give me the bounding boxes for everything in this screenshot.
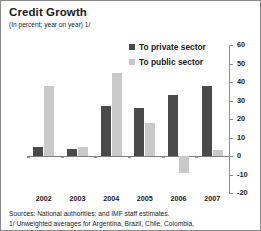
- y-axis-tick: [229, 101, 233, 102]
- x-axis-category-labels: 200220032004200520062007: [27, 194, 229, 206]
- bar-2006-public[interactable]: [179, 156, 189, 173]
- x-axis-category-2004: 2004: [94, 194, 128, 203]
- bar-2002-public[interactable]: [44, 86, 54, 156]
- x-axis-tick: [195, 157, 198, 158]
- bar-2007-public[interactable]: [213, 150, 223, 156]
- bar-2003-public[interactable]: [78, 147, 88, 156]
- x-axis-tick: [94, 157, 97, 158]
- y-axis-tick: [229, 138, 233, 139]
- y-axis-label: 0: [237, 152, 241, 159]
- bar-2002-private[interactable]: [33, 147, 43, 156]
- bar-2004-public[interactable]: [112, 73, 122, 156]
- x-axis-category-2006: 2006: [162, 194, 196, 203]
- y-axis-label: -20: [237, 189, 248, 196]
- x-axis-tick: [162, 157, 165, 158]
- y-axis-label: 30: [237, 97, 245, 104]
- x-axis-category-2003: 2003: [61, 194, 95, 203]
- y-axis-tick: [229, 119, 233, 120]
- chart-footnotes: Sources: National authorities; and IMF s…: [9, 209, 257, 229]
- x-axis-category-2007: 2007: [195, 194, 229, 203]
- x-axis-tick: [128, 157, 131, 158]
- y-axis-label: 20: [237, 115, 245, 122]
- y-axis-label: 50: [237, 60, 245, 67]
- x-axis-category-2005: 2005: [128, 194, 162, 203]
- y-axis-right: 6050403020100-10-20: [229, 45, 259, 193]
- bar-group-2004: [94, 45, 128, 193]
- bar-group-2003: [61, 45, 95, 193]
- bar-group-2006: [162, 45, 196, 193]
- y-axis-tick: [229, 156, 233, 157]
- bar-2007-private[interactable]: [202, 86, 212, 156]
- y-axis-label: 60: [237, 41, 245, 48]
- bar-2004-private[interactable]: [101, 106, 111, 156]
- x-axis-tick: [61, 157, 64, 158]
- y-axis-tick: [229, 175, 233, 176]
- bar-2005-private[interactable]: [134, 108, 144, 156]
- x-axis-tick: [27, 157, 30, 158]
- y-axis-label: -10: [237, 171, 248, 178]
- chart-subtitle: (In percent; year on year) 1/: [9, 21, 90, 28]
- y-axis-label: 10: [237, 134, 245, 141]
- y-axis-tick: [229, 193, 233, 194]
- footnote-sources: Sources: National authorities; and IMF s…: [9, 209, 257, 219]
- bar-group-2005: [128, 45, 162, 193]
- footnote-coverage: 1/ Unweighted averages for Argentina, Br…: [9, 219, 257, 229]
- chart-title: Credit Growth: [9, 6, 87, 18]
- bar-2005-public[interactable]: [145, 123, 155, 156]
- y-axis-label: 40: [237, 78, 245, 85]
- y-axis-tick: [229, 64, 233, 65]
- y-axis-tick: [229, 45, 233, 46]
- bar-group-2002: [27, 45, 61, 193]
- plot-area: [27, 45, 229, 193]
- bar-2006-private[interactable]: [168, 95, 178, 156]
- credit-growth-chart-figure: Credit Growth (In percent; year on year)…: [0, 0, 261, 231]
- bar-group-2007: [195, 45, 229, 193]
- x-axis-category-2002: 2002: [27, 194, 61, 203]
- bar-2003-private[interactable]: [67, 149, 77, 156]
- y-axis-tick: [229, 82, 233, 83]
